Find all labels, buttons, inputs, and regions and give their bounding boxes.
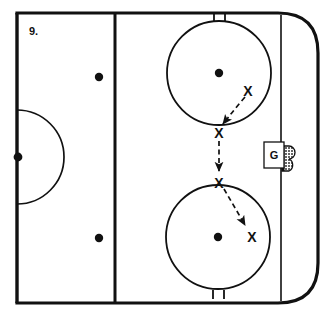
- player-x-1: X: [243, 83, 253, 99]
- goalie-label: G: [270, 149, 279, 161]
- faceoff-dots: [14, 69, 224, 242]
- player-x-2: X: [214, 125, 224, 141]
- center-ice-dot: [14, 153, 23, 162]
- goalie-marker: G: [264, 142, 284, 168]
- center-circle-arc: [17, 110, 64, 204]
- faceoff-dot-bottom: [214, 233, 222, 241]
- drill-number-label: 9.: [29, 25, 38, 37]
- rink-canvas: G X X X X 9.: [0, 0, 330, 316]
- neutral-zone-dot-bottom: [95, 234, 103, 242]
- movement-paths: [219, 97, 245, 225]
- faceoff-dot-top: [215, 69, 223, 77]
- skate-path-3: [224, 189, 245, 225]
- hockey-rink-diagram: G X X X X 9.: [0, 0, 330, 316]
- player-x-4: X: [247, 229, 257, 245]
- neutral-zone-dot-top: [95, 73, 103, 81]
- center-ice-half-circle: [17, 110, 64, 204]
- player-x-3: X: [214, 175, 224, 191]
